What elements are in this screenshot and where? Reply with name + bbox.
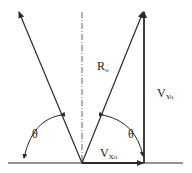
incident-vector-arrow xyxy=(19,12,82,163)
right-angle-label: θ xyxy=(128,127,134,141)
right-angle-arc xyxy=(103,115,143,156)
velocity-vector-diagram: Ro VYo VXo θ θ xyxy=(0,0,192,173)
resultant-label: Ro xyxy=(97,59,109,74)
vertical-component-label: VYo xyxy=(157,86,174,101)
horizontal-component-label: VXo xyxy=(100,146,118,161)
left-angle-arc xyxy=(24,115,61,158)
left-angle-label: θ xyxy=(32,127,38,141)
resultant-vector-arrow xyxy=(82,12,143,163)
